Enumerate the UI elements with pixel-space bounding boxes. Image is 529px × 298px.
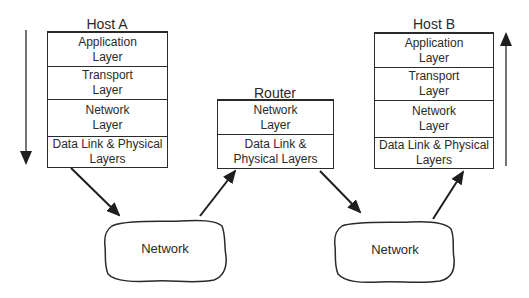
- host-b-application-layer: Application Layer: [375, 34, 493, 67]
- network-2-label: Network: [335, 242, 455, 257]
- router-stack: Network Layer Data Link & Physical Layer…: [217, 99, 334, 169]
- host-b-title: Host B: [374, 17, 494, 31]
- host-b-stack: Application Layer Transport Layer Networ…: [374, 32, 494, 169]
- router-title: Router: [217, 86, 333, 100]
- router-network-layer: Network Layer: [218, 101, 333, 134]
- host-b-transport-layer: Transport Layer: [375, 67, 493, 100]
- host-b-network-layer: Network Layer: [375, 100, 493, 137]
- router-datalink-physical-layer: Data Link & Physical Layers: [218, 134, 333, 168]
- arrow-network-to-hostb-icon: [433, 172, 463, 219]
- arrow-router-to-network-icon: [320, 171, 360, 212]
- host-a-datalink-physical-layer: Data Link & Physical Layers: [48, 136, 167, 167]
- host-a-stack: Application Layer Transport Layer Networ…: [47, 31, 168, 168]
- host-a-transport-layer: Transport Layer: [48, 66, 167, 99]
- host-b-datalink-physical-layer: Data Link & Physical Layers: [375, 137, 493, 168]
- arrow-hosta-to-network-icon: [71, 168, 119, 215]
- host-a-application-layer: Application Layer: [48, 33, 167, 66]
- network-1-label: Network: [105, 241, 225, 256]
- arrow-network-to-router-icon: [200, 171, 235, 216]
- host-a-network-layer: Network Layer: [48, 99, 167, 136]
- host-a-title: Host A: [47, 17, 167, 31]
